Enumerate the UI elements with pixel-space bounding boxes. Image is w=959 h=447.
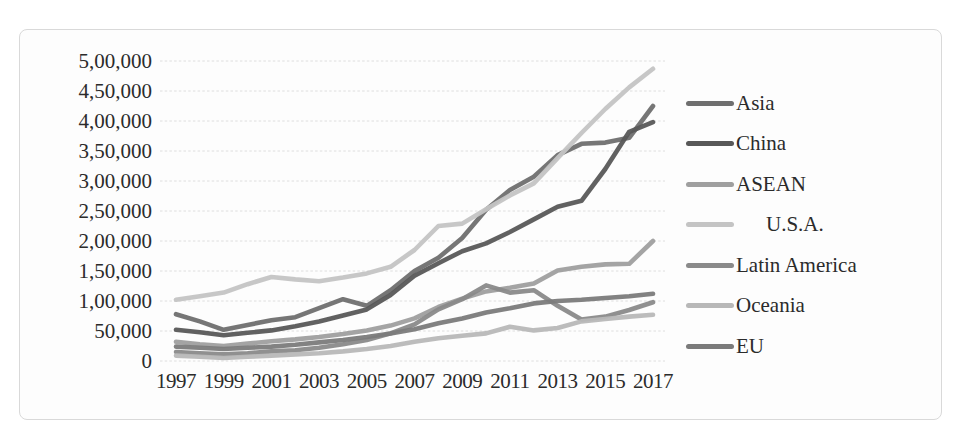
- legend-swatch: [686, 344, 734, 349]
- legend-item-u-s-a: U.S.A.: [686, 205, 857, 246]
- legend-item-asia: Asia: [686, 83, 857, 124]
- y-axis-tick-label: 2,50,000: [79, 199, 153, 223]
- x-axis-tick-label: 2015: [585, 369, 625, 393]
- y-axis-tick-label: 3,50,000: [79, 139, 153, 163]
- legend-item-oceania: Oceania: [686, 286, 857, 327]
- legend-swatch: [686, 222, 734, 227]
- y-axis-tick-label: 4,00,000: [79, 109, 153, 133]
- legend-label: U.S.A.: [736, 214, 824, 235]
- x-axis-tick-label: 2017: [633, 369, 673, 393]
- legend-swatch: [686, 263, 734, 268]
- legend-label: Oceania: [736, 295, 805, 316]
- x-axis-tick-label: 2005: [347, 369, 387, 393]
- x-axis-tick-label: 2009: [442, 369, 482, 393]
- y-axis-tick-label: 1,50,000: [79, 259, 153, 283]
- legend-label: EU: [736, 336, 764, 357]
- legend-swatch: [686, 141, 734, 146]
- x-axis-tick-label: 2011: [490, 369, 529, 393]
- y-axis-tick-label: 2,00,000: [79, 229, 153, 253]
- line-chart: 050,0001,00,0001,50,0002,00,0002,50,0003…: [20, 30, 685, 419]
- x-axis-tick-label: 2001: [251, 369, 291, 393]
- legend-item-asean: ASEAN: [686, 164, 857, 205]
- y-axis-tick-label: 1,00,000: [79, 289, 153, 313]
- legend-label: Latin America: [736, 255, 857, 276]
- y-axis-tick-label: 4,50,000: [79, 79, 153, 103]
- chart-figure: 050,0001,00,0001,50,0002,00,0002,50,0003…: [19, 29, 942, 420]
- legend-label: China: [736, 133, 786, 154]
- y-axis-tick-label: 50,000: [94, 319, 152, 343]
- x-axis-tick-label: 1997: [156, 369, 196, 393]
- legend-item-eu: EU: [686, 326, 857, 367]
- x-axis-tick-label: 2007: [395, 369, 435, 393]
- x-axis-tick-label: 1999: [204, 369, 244, 393]
- legend-label: ASEAN: [736, 174, 806, 195]
- y-axis-tick-label: 3,00,000: [79, 169, 153, 193]
- y-axis-tick-label: 5,00,000: [79, 49, 153, 73]
- x-axis-tick-label: 2003: [299, 369, 339, 393]
- x-axis-tick-label: 2013: [538, 369, 578, 393]
- legend-label: Asia: [736, 93, 775, 114]
- series-line-china: [176, 122, 653, 335]
- legend-swatch: [686, 101, 734, 106]
- legend-swatch: [686, 303, 734, 308]
- legend-swatch: [686, 182, 734, 187]
- series-line-asia: [176, 106, 653, 330]
- legend-item-china: China: [686, 124, 857, 165]
- chart-legend: AsiaChinaASEANU.S.A.Latin AmericaOceania…: [686, 83, 857, 367]
- y-axis-tick-label: 0: [142, 349, 153, 373]
- legend-item-latin-america: Latin America: [686, 245, 857, 286]
